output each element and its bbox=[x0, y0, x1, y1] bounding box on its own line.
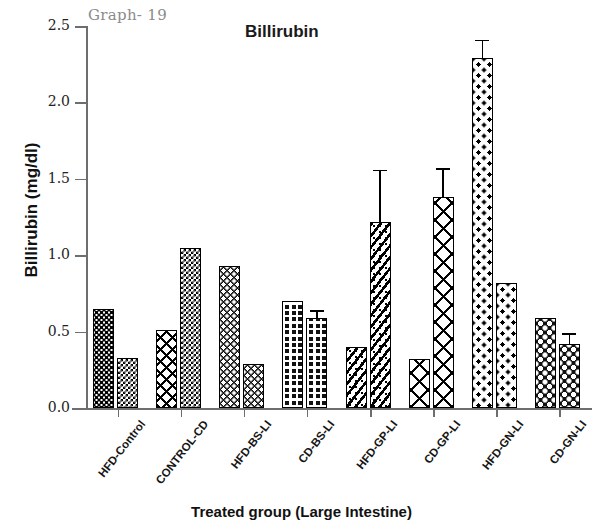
y-axis-tick-label-wrap: 1.5 bbox=[30, 179, 70, 180]
bar bbox=[433, 197, 454, 408]
x-axis-category-label: CONTROL-CD bbox=[153, 418, 210, 486]
error-bar-stem bbox=[442, 170, 444, 198]
bar bbox=[409, 359, 430, 408]
y-axis-tick-label: 2.0 bbox=[36, 93, 70, 109]
error-bar-cap bbox=[373, 170, 387, 172]
bar bbox=[93, 309, 114, 408]
error-bar-stem bbox=[569, 335, 571, 344]
x-axis-category-label: HFD-GP-LI bbox=[354, 418, 399, 471]
y-axis-tick-label: 2.5 bbox=[36, 17, 70, 33]
bar bbox=[370, 222, 391, 408]
y-axis-tick bbox=[75, 332, 86, 334]
bar bbox=[180, 248, 201, 408]
error-bar-stem bbox=[379, 171, 381, 221]
y-axis-tick bbox=[75, 255, 86, 257]
x-axis-category-label: HFD-Control bbox=[95, 418, 147, 479]
y-axis-title: Billirubin (mg/dl) bbox=[22, 90, 42, 330]
plot-area bbox=[86, 26, 591, 408]
x-axis-line bbox=[72, 408, 592, 410]
y-axis-tick-label-wrap: 2.5 bbox=[30, 26, 70, 27]
y-axis-tick-label-wrap: 0.0 bbox=[30, 408, 70, 409]
error-bar-cap bbox=[475, 40, 489, 42]
x-axis-tick bbox=[370, 408, 372, 417]
x-axis-tick bbox=[433, 408, 435, 417]
x-axis-category-label: CD-GN-LI bbox=[548, 418, 589, 466]
bar bbox=[117, 358, 138, 408]
y-axis-tick-label-wrap: 2.0 bbox=[30, 102, 70, 103]
x-axis-tick bbox=[307, 408, 309, 417]
bar bbox=[559, 344, 580, 408]
bar bbox=[156, 330, 177, 408]
x-axis-category-label: CD-BS-LI bbox=[296, 418, 337, 465]
x-axis-tick bbox=[559, 408, 561, 417]
y-axis-tick-label: 0.0 bbox=[36, 399, 70, 415]
x-axis-category-label: HFD-BS-LI bbox=[228, 418, 273, 471]
x-axis-tick bbox=[496, 408, 498, 417]
y-axis-tick bbox=[75, 179, 86, 181]
x-axis-tick bbox=[244, 408, 246, 417]
bar bbox=[346, 347, 367, 408]
error-bar-cap bbox=[310, 310, 324, 312]
x-axis-tick bbox=[181, 408, 183, 417]
bar bbox=[243, 364, 264, 408]
bar bbox=[282, 301, 303, 408]
bar bbox=[472, 58, 493, 408]
x-axis-category-label: HFD-GN-LI bbox=[480, 418, 526, 472]
error-bar-stem bbox=[316, 312, 318, 318]
error-bar-cap bbox=[562, 333, 576, 335]
y-axis-tick bbox=[75, 408, 86, 410]
error-bar-stem bbox=[482, 41, 484, 58]
x-axis-category-label: CD-GP-LI bbox=[422, 418, 463, 466]
y-axis-tick-label-wrap: 0.5 bbox=[30, 332, 70, 333]
bar bbox=[496, 283, 517, 408]
bar-chart-figure: Graph- 19 Billirubin Billirubin (mg/dl) … bbox=[0, 0, 603, 530]
bar bbox=[535, 318, 556, 408]
error-bar-cap bbox=[436, 168, 450, 170]
y-axis-tick-label: 1.5 bbox=[36, 170, 70, 186]
bar bbox=[219, 266, 240, 408]
x-axis-tick bbox=[118, 408, 120, 417]
y-axis-tick-label: 1.0 bbox=[36, 246, 70, 262]
x-axis-title: Treated group (Large Intestine) bbox=[0, 503, 603, 520]
bar bbox=[306, 318, 327, 408]
y-axis-tick bbox=[75, 102, 86, 104]
y-axis-tick bbox=[75, 26, 86, 28]
y-axis-tick-label-wrap: 1.0 bbox=[30, 255, 70, 256]
y-axis-tick-label: 0.5 bbox=[36, 323, 70, 339]
graph-number-annotation: Graph- 19 bbox=[88, 6, 167, 24]
